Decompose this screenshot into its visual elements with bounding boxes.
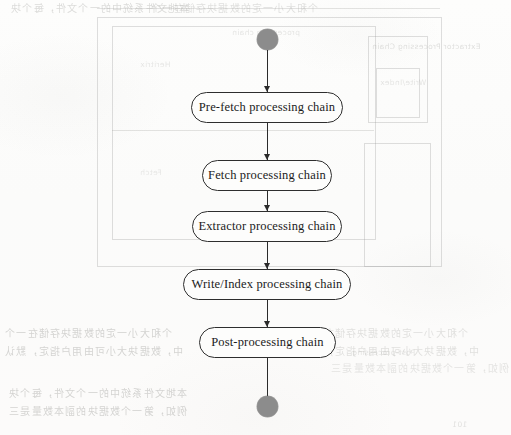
activity-node-write-index[interactable]: Write/Index processing chain: [183, 269, 351, 300]
end-node: [257, 396, 278, 417]
scanned-page: 个和大小一定的数据块存储在一个 中，数据块大小可由用户指定，默认 本地文件系统中…: [0, 0, 511, 435]
edge-post-to-end: [267, 358, 268, 398]
activity-node-pre-fetch[interactable]: Pre-fetch processing chain: [191, 92, 343, 123]
activity-node-extractor[interactable]: Extractor processing chain: [192, 211, 342, 242]
activity-node-extractor-label: Extractor processing chain: [198, 220, 335, 233]
activity-node-post-processing-label: Post-processing chain: [211, 336, 324, 349]
start-node: [257, 29, 278, 50]
activity-node-post-processing[interactable]: Post-processing chain: [199, 327, 336, 358]
activity-node-fetch-label: Fetch processing chain: [208, 169, 326, 182]
activity-node-write-index-label: Write/Index processing chain: [192, 278, 343, 291]
activity-node-fetch[interactable]: Fetch processing chain: [202, 160, 332, 191]
activity-node-pre-fetch-label: Pre-fetch processing chain: [199, 101, 336, 114]
activity-diagram: Pre-fetch processing chain Fetch process…: [0, 0, 511, 435]
